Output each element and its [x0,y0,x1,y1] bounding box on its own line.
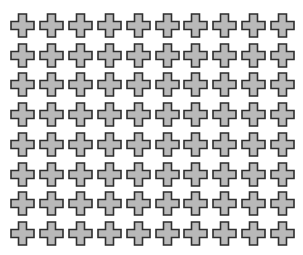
plus-cross-icon [270,162,295,187]
plus-cross-icon [10,13,35,38]
plus-cross-icon [241,13,266,38]
plus-cross-icon [212,191,237,216]
plus-cross-icon [39,13,64,38]
plus-cross-icon [97,72,122,97]
plus-cross-icon [155,13,180,38]
plus-cross-icon [126,162,151,187]
plus-cross-icon [155,162,180,187]
plus-cross-icon [270,132,295,157]
plus-cross-icon [155,221,180,246]
plus-cross-icon [155,191,180,216]
plus-cross-icon [10,72,35,97]
plus-cross-icon [39,72,64,97]
plus-cross-icon [39,102,64,127]
plus-cross-icon [270,43,295,68]
plus-cross-icon [183,221,208,246]
plus-cross-icon [97,102,122,127]
plus-cross-icon [241,43,266,68]
plus-cross-icon [155,72,180,97]
plus-cross-icon [10,162,35,187]
plus-cross-icon [68,191,93,216]
plus-cross-icon [241,132,266,157]
plus-cross-icon [183,162,208,187]
plus-cross-icon [68,132,93,157]
plus-cross-icon [183,191,208,216]
plus-cross-icon [68,102,93,127]
plus-cross-icon [126,72,151,97]
plus-cross-icon [10,43,35,68]
plus-cross-icon [10,191,35,216]
plus-cross-icon [39,191,64,216]
plus-cross-icon [68,43,93,68]
plus-cross-icon [97,13,122,38]
plus-cross-icon [183,132,208,157]
plus-cross-icon [212,13,237,38]
plus-cross-icon [183,43,208,68]
plus-cross-icon [241,191,266,216]
cross-grid [0,0,303,255]
plus-cross-icon [97,191,122,216]
plus-cross-icon [126,132,151,157]
plus-cross-icon [241,102,266,127]
plus-cross-icon [126,191,151,216]
plus-cross-icon [183,13,208,38]
plus-cross-icon [39,221,64,246]
plus-cross-icon [241,72,266,97]
plus-cross-icon [97,221,122,246]
plus-cross-icon [212,102,237,127]
plus-cross-icon [97,132,122,157]
plus-cross-icon [10,132,35,157]
plus-cross-icon [241,221,266,246]
plus-cross-icon [10,221,35,246]
plus-cross-icon [183,72,208,97]
plus-cross-icon [97,43,122,68]
plus-cross-icon [155,102,180,127]
plus-cross-icon [10,102,35,127]
plus-cross-icon [212,43,237,68]
plus-cross-icon [39,132,64,157]
plus-cross-icon [241,162,266,187]
plus-cross-icon [68,162,93,187]
plus-cross-icon [97,162,122,187]
plus-cross-icon [126,13,151,38]
plus-cross-icon [270,102,295,127]
plus-cross-icon [270,72,295,97]
plus-cross-icon [212,132,237,157]
plus-cross-icon [212,162,237,187]
plus-cross-icon [126,102,151,127]
plus-cross-icon [155,43,180,68]
plus-cross-icon [68,13,93,38]
plus-cross-icon [68,72,93,97]
plus-cross-icon [39,162,64,187]
plus-cross-icon [126,221,151,246]
plus-cross-icon [270,191,295,216]
plus-cross-icon [126,43,151,68]
plus-cross-icon [39,43,64,68]
plus-cross-icon [270,221,295,246]
plus-cross-icon [270,13,295,38]
plus-cross-icon [212,221,237,246]
plus-cross-icon [183,102,208,127]
plus-cross-icon [68,221,93,246]
plus-cross-icon [155,132,180,157]
plus-cross-icon [212,72,237,97]
